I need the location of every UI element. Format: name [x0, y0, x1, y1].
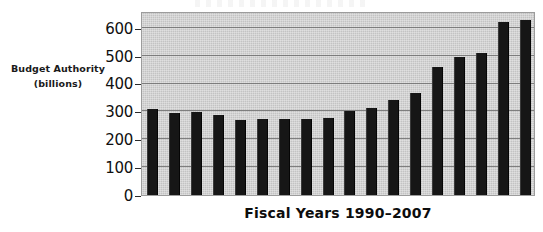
- y-tick-label: 300: [105, 103, 133, 121]
- bar: [257, 119, 268, 195]
- plot-area: [141, 12, 535, 196]
- x-axis-title: Fiscal Years 1990–2007: [141, 205, 535, 221]
- bar: [169, 113, 180, 195]
- bar: [388, 100, 399, 195]
- y-tick-mark: [135, 196, 141, 197]
- bar: [235, 120, 246, 195]
- bar: [323, 118, 334, 195]
- y-tick-label: 600: [105, 20, 133, 38]
- bar: [454, 57, 465, 195]
- y-tick-label: 100: [105, 159, 133, 177]
- y-tick-label: 0: [124, 187, 133, 205]
- bar: [410, 93, 421, 195]
- bar: [147, 109, 158, 195]
- bar: [301, 119, 312, 195]
- bar: [344, 111, 355, 195]
- bars-layer: [142, 13, 534, 195]
- bar: [279, 119, 290, 195]
- bar: [520, 20, 531, 195]
- bar: [213, 115, 224, 195]
- y-tick-label: 200: [105, 131, 133, 149]
- y-axis: 0100200300400500600: [0, 12, 141, 196]
- bar-chart: Budget Authority (billions) 010020030040…: [0, 0, 543, 232]
- bar: [432, 67, 443, 195]
- bar: [476, 53, 487, 195]
- cropped-title-remnant: [195, 0, 365, 7]
- bar: [191, 112, 202, 195]
- bar: [498, 22, 509, 195]
- y-tick-label: 400: [105, 75, 133, 93]
- bar: [366, 108, 377, 195]
- y-tick-label: 500: [105, 48, 133, 66]
